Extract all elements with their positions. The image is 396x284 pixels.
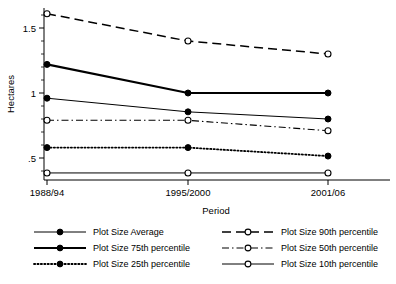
chart-background	[0, 0, 396, 284]
data-point	[185, 38, 191, 44]
legend-label: Plot Size 75th percentile	[93, 243, 190, 253]
legend-label: Plot Size Average	[93, 227, 164, 237]
legend-label: Plot Size 25th percentile	[93, 259, 190, 269]
data-point	[44, 117, 50, 123]
legend-marker	[245, 229, 251, 235]
legend-marker	[245, 261, 251, 267]
y-axis-title: Hectares	[5, 75, 16, 113]
data-point	[325, 170, 331, 176]
line-chart: .511.5 1988/941995/20002001/06 Hectares …	[0, 0, 396, 284]
legend-marker	[57, 229, 63, 235]
data-point	[325, 90, 331, 96]
data-point	[185, 145, 191, 151]
x-tick-label: 2001/06	[311, 187, 345, 198]
x-tick-label: 1995/2000	[166, 187, 211, 198]
data-point	[185, 90, 191, 96]
data-point	[325, 116, 331, 122]
x-axis-title: Period	[202, 205, 229, 216]
legend-marker	[57, 245, 63, 251]
legend-label: Plot Size 90th percentile	[281, 227, 378, 237]
data-point	[185, 109, 191, 115]
data-point	[185, 170, 191, 176]
data-point	[44, 145, 50, 151]
data-point	[325, 51, 331, 57]
y-tick-label: .5	[28, 153, 36, 164]
x-tick-label: 1988/94	[30, 187, 64, 198]
chart-container: .511.5 1988/941995/20002001/06 Hectares …	[0, 0, 396, 284]
data-point	[44, 95, 50, 101]
data-point	[44, 170, 50, 176]
data-point	[44, 11, 50, 17]
legend-label: Plot Size 10th percentile	[281, 259, 378, 269]
legend-label: Plot Size 50th percentile	[281, 243, 378, 253]
legend-marker	[245, 245, 251, 251]
data-point	[325, 153, 331, 159]
data-point	[325, 128, 331, 134]
y-tick-label: 1	[31, 88, 36, 99]
y-tick-label: 1.5	[23, 23, 36, 34]
data-point	[185, 117, 191, 123]
legend-marker	[57, 261, 63, 267]
data-point	[44, 61, 50, 67]
